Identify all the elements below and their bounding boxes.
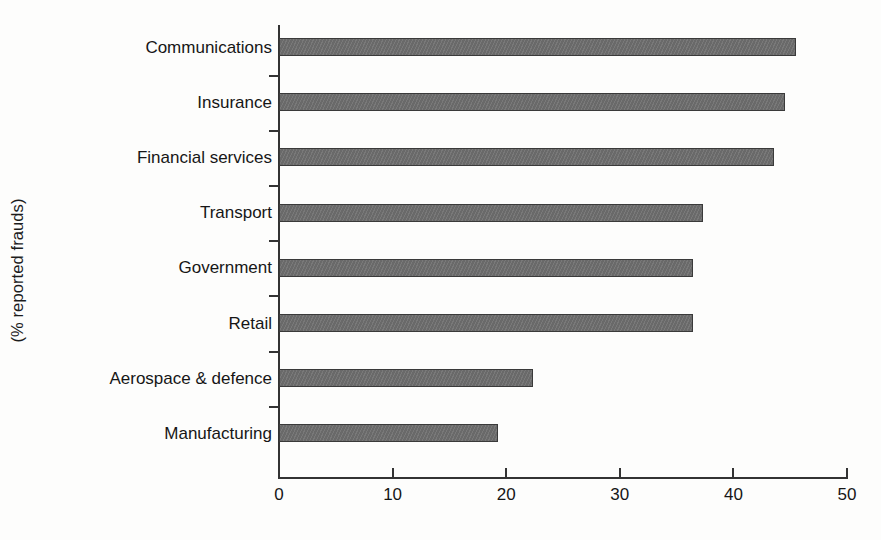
y-axis-tick — [269, 295, 279, 297]
bar — [279, 259, 693, 277]
bar — [279, 38, 796, 56]
bar — [279, 369, 533, 387]
x-axis-tick — [619, 468, 621, 478]
bar — [279, 424, 498, 442]
y-axis-category-label: Retail — [229, 315, 272, 332]
x-axis-line — [278, 477, 848, 479]
y-axis-tick — [269, 130, 279, 132]
x-axis-tick-label: 40 — [724, 486, 743, 503]
bar — [279, 204, 703, 222]
bar — [279, 148, 774, 166]
x-axis-tick — [505, 468, 507, 478]
y-axis-tick — [269, 351, 279, 353]
x-axis-tick-label: 50 — [838, 486, 857, 503]
y-axis-category-label: Insurance — [197, 94, 272, 111]
bar-chart: (% reported frauds) CommunicationsInsura… — [0, 0, 881, 540]
y-axis-category-label: Manufacturing — [164, 425, 272, 442]
y-axis-category-label: Transport — [200, 204, 272, 221]
bar — [279, 314, 693, 332]
x-axis-tick-label: 20 — [497, 486, 516, 503]
y-axis-tick — [269, 185, 279, 187]
x-axis-tick — [392, 468, 394, 478]
x-axis-tick-label: 10 — [383, 486, 402, 503]
y-axis-tick — [269, 240, 279, 242]
y-axis-category-label: Aerospace & defence — [109, 370, 272, 387]
x-axis-tick — [846, 468, 848, 478]
bar — [279, 93, 785, 111]
x-axis-tick-label: 30 — [610, 486, 629, 503]
y-axis-category-label: Communications — [145, 39, 272, 56]
y-axis-tick — [269, 75, 279, 77]
y-axis-category-label: Government — [178, 259, 272, 276]
x-axis-tick — [732, 468, 734, 478]
x-axis-tick — [278, 468, 280, 478]
x-axis-tick-label: 0 — [274, 486, 283, 503]
y-axis-category-label: Financial services — [137, 149, 272, 166]
y-axis-tick — [269, 406, 279, 408]
plot-area: CommunicationsInsuranceFinancial service… — [0, 0, 881, 540]
